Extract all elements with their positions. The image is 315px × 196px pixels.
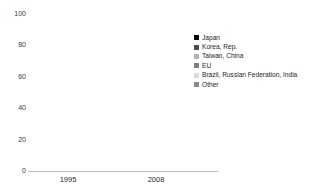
legend-item[interactable]: Other — [194, 80, 314, 89]
y-tick-label: 100 — [14, 10, 26, 18]
legend-swatch-icon — [194, 35, 199, 40]
legend: JapanKorea, Rep.Taiwan, ChinaEUBrazil, R… — [194, 33, 314, 89]
legend-item[interactable]: Japan — [194, 33, 314, 42]
x-tick-label: 1995 — [60, 175, 77, 185]
y-tick-label: 80 — [18, 41, 26, 49]
x-axis: 1995 2008 — [30, 175, 188, 189]
y-tick-label: 60 — [18, 73, 26, 81]
x-axis-line — [28, 171, 218, 172]
legend-item[interactable]: Brazil, Russian Federation, India — [194, 71, 314, 80]
legend-swatch-icon — [194, 73, 199, 78]
x-tick-label: 2008 — [148, 175, 165, 185]
legend-label: Japan — [202, 34, 220, 42]
legend-swatch-icon — [194, 63, 199, 68]
y-tick-label: 0 — [22, 167, 26, 175]
plot-area — [30, 14, 188, 171]
legend-swatch-icon — [194, 54, 199, 59]
legend-label: Brazil, Russian Federation, India — [202, 71, 297, 79]
y-tick-label: 20 — [18, 136, 26, 144]
legend-label: Other — [202, 81, 219, 89]
y-tick-label: 40 — [18, 104, 26, 112]
legend-label: Taiwan, China — [202, 52, 243, 60]
legend-item[interactable]: Korea, Rep. — [194, 42, 314, 51]
legend-item[interactable]: EU — [194, 61, 314, 70]
legend-swatch-icon — [194, 45, 199, 50]
stacked-bar-chart: 100 80 60 40 20 0 1995 2008 JapanKorea, … — [0, 0, 315, 196]
legend-item[interactable]: Taiwan, China — [194, 52, 314, 61]
legend-label: EU — [202, 62, 211, 70]
legend-label: Korea, Rep. — [202, 43, 237, 51]
y-axis: 100 80 60 40 20 0 — [0, 14, 26, 171]
legend-swatch-icon — [194, 82, 199, 87]
